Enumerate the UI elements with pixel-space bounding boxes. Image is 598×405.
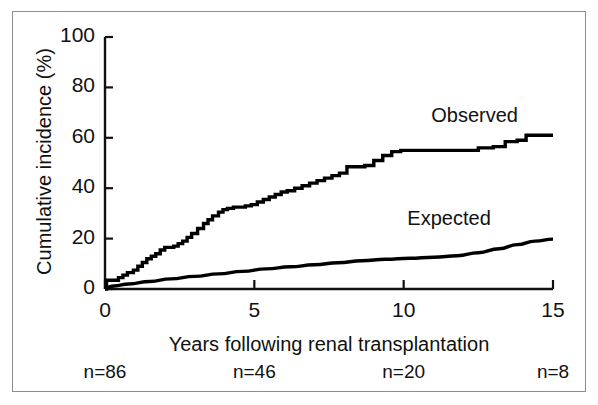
y-tick-label: 40: [49, 174, 95, 198]
y-tick-label: 80: [49, 73, 95, 97]
numbers-at-risk-entry: n=20: [364, 361, 444, 383]
x-axis-title: Years following renal transplantation: [105, 333, 553, 356]
plot-area: Cumulative incidence (%) Years following…: [0, 0, 598, 405]
y-tick-label: 100: [49, 23, 95, 47]
y-tick-label: 0: [49, 275, 95, 299]
x-tick-label: 10: [381, 298, 427, 322]
x-tick-label: 5: [231, 298, 277, 322]
observed-label: Observed: [431, 104, 518, 127]
y-axis-title: Cumulative incidence (%): [33, 32, 56, 292]
x-tick-label: 0: [82, 298, 128, 322]
figure-container: Cumulative incidence (%) Years following…: [0, 0, 598, 405]
numbers-at-risk-entry: n=8: [513, 361, 593, 383]
expected-label: Expected: [407, 207, 490, 230]
numbers-at-risk-entry: n=86: [65, 361, 145, 383]
x-tick-label: 15: [530, 298, 576, 322]
numbers-at-risk-entry: n=46: [214, 361, 294, 383]
y-tick-label: 20: [49, 225, 95, 249]
x-tick-marks: [105, 280, 553, 289]
y-tick-label: 60: [49, 124, 95, 148]
